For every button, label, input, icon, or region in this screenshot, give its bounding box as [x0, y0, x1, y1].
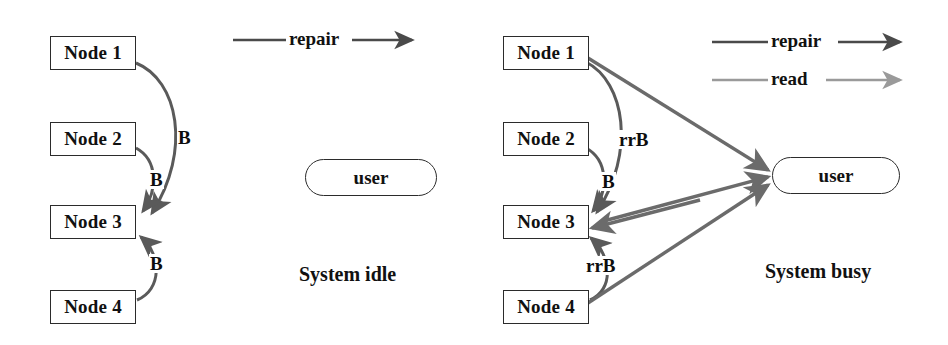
- left-node-box-1[interactable]: Node 1: [50, 36, 136, 70]
- edge-node1-to-node3: [136, 63, 176, 213]
- right-node-box-4[interactable]: Node 4: [503, 290, 589, 324]
- left-node-box-2[interactable]: Node 2: [50, 122, 136, 156]
- right-legend-label-repair: repair: [768, 31, 824, 50]
- left-legend-label-repair: repair: [286, 29, 342, 48]
- right-node-box-2[interactable]: Node 2: [503, 122, 589, 156]
- left-node-label-1: Node 1: [64, 42, 122, 64]
- right-edge-label-node2: B: [601, 172, 616, 191]
- right-edge-label-node4: rrB: [585, 256, 617, 275]
- right-legend-label-read: read: [768, 69, 811, 88]
- right-node-label-1: Node 1: [517, 42, 575, 64]
- left-user-capsule[interactable]: user: [305, 159, 437, 196]
- left-user-label: user: [354, 167, 389, 189]
- right-panel-caption: System busy: [765, 260, 871, 283]
- diagram-figure: Node 1 Node 2 Node 3 Node 4 B B B repair…: [0, 0, 948, 345]
- left-node-box-3[interactable]: Node 3: [50, 205, 136, 239]
- right-node-label-3: Node 3: [517, 211, 575, 233]
- left-node-label-2: Node 2: [64, 128, 122, 150]
- left-edge-label-node4: B: [149, 254, 164, 273]
- right-node-label-4: Node 4: [517, 296, 575, 318]
- left-node-label-4: Node 4: [64, 296, 122, 318]
- right-edge-label-node1: rrB: [618, 130, 650, 149]
- edge-node1-to-user: [588, 58, 768, 170]
- edge-user-to-node3: [592, 200, 700, 228]
- left-edge-label-node2: B: [149, 170, 164, 189]
- right-node-box-1[interactable]: Node 1: [503, 36, 589, 70]
- right-node-box-3[interactable]: Node 3: [503, 205, 589, 239]
- right-user-label: user: [819, 165, 854, 187]
- left-node-label-3: Node 3: [64, 211, 122, 233]
- left-edge-label-node1: B: [177, 128, 192, 147]
- left-node-box-4[interactable]: Node 4: [50, 290, 136, 324]
- right-node-label-2: Node 2: [517, 128, 575, 150]
- left-panel-caption: System idle: [299, 263, 396, 286]
- right-user-capsule[interactable]: user: [772, 157, 900, 194]
